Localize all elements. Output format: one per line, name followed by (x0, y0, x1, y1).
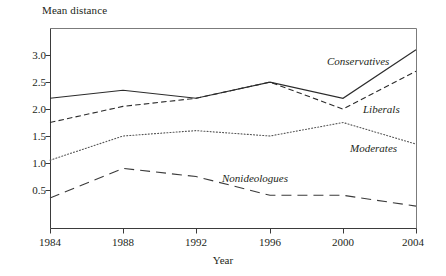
x-tick-label: 2000 (332, 236, 354, 248)
x-tick-label: 2004 (402, 236, 424, 248)
series-line-liberals (50, 71, 416, 122)
series-label-conservatives: Conservatives (327, 55, 389, 67)
x-tick-label: 1988 (112, 236, 134, 248)
x-axis-title: Year (0, 254, 446, 266)
series-label-moderates: Moderates (350, 142, 397, 154)
series-label-liberals: Liberals (363, 103, 400, 115)
x-tick-label: 1984 (39, 236, 61, 248)
chart-container: Mean distance 3.0 2.5 2.0 1.5 1.0 0.5 (0, 0, 446, 276)
x-tick-label: 1996 (259, 236, 281, 248)
x-axis-ticks (51, 229, 417, 234)
x-tick-label: 1992 (185, 236, 207, 248)
y-axis-ticks (46, 56, 51, 191)
series-label-nonideologues: Nonideologues (222, 172, 288, 184)
plot-area (0, 0, 446, 276)
